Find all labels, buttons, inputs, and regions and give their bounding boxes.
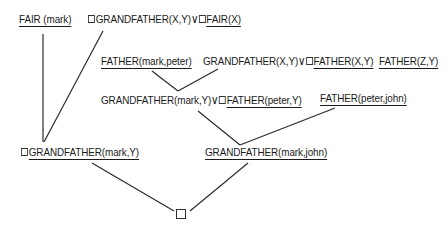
negation-box-icon — [21, 148, 28, 156]
empty-clause-box-icon — [176, 209, 186, 219]
node-fair-mark: FAIR (mark) — [19, 12, 71, 26]
node-father-peter-john: FATHER(peter,john) — [320, 91, 407, 105]
literal-father-xy: FATHER(X,Y) — [314, 55, 374, 67]
edge-father-mark-peter-to-resolvent1 — [152, 71, 178, 91]
negation-box-icon — [199, 15, 206, 23]
negation-box-icon — [88, 15, 95, 23]
literal-grandfather-mark-y: GRANDFATHER(mark,Y) — [29, 146, 139, 158]
or-symbol: ∨ — [211, 94, 219, 106]
or-symbol: ∨ — [298, 55, 306, 67]
negation-box-icon — [219, 96, 226, 104]
literal-father-peter-y: FATHER(peter,Y) — [227, 94, 302, 106]
node-father-mark-peter: FATHER(mark,peter) — [101, 54, 192, 68]
edge-left-to-empty — [92, 163, 174, 211]
edge-father-peter-john-to-right — [240, 108, 335, 145]
literal-father-mark-peter: FATHER(mark,peter) — [101, 55, 192, 67]
literal-grandfather-mark-john: GRANDFATHER(mark,john) — [205, 146, 327, 158]
literal-grandfather-xy: GRANDFATHER(X,Y) — [96, 13, 191, 25]
literal-fair-mark: FAIR (mark) — [19, 13, 71, 25]
literal-grandfather-mark-y: GRANDFATHER(mark,Y) — [101, 94, 211, 106]
edge-clause2-to-resolvent1 — [178, 69, 218, 91]
node-father-z-y: FATHER(Z,Y) — [379, 54, 438, 68]
node-resolvent-right: GRANDFATHER(mark,john) — [205, 145, 327, 159]
node-resolvent-left: GRANDFATHER(mark,Y) — [21, 145, 139, 159]
edge-resolvent1-to-right — [198, 111, 240, 145]
literal-fair-x: FAIR(X) — [206, 13, 241, 25]
edge-layer — [0, 0, 448, 240]
edge-clause1-to-left — [44, 31, 103, 142]
negation-box-icon — [306, 57, 313, 65]
literal-father-zy: FATHER(Z,Y) — [379, 55, 438, 67]
node-resolvent1: GRANDFATHER(mark,Y)∨FATHER(peter,Y) — [101, 93, 302, 107]
literal-father-peter-john: FATHER(peter,john) — [320, 92, 407, 104]
node-clause1: GRANDFATHER(X,Y)∨FAIR(X) — [88, 12, 241, 26]
or-symbol: ∨ — [191, 13, 199, 25]
edge-right-to-empty — [190, 163, 248, 211]
literal-grandfather-xy: GRANDFATHER(X,Y) — [203, 55, 298, 67]
node-clause2: GRANDFATHER(X,Y)∨FATHER(X,Y) — [203, 54, 373, 68]
